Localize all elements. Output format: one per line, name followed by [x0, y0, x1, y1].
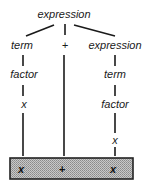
left-term-node: term [11, 39, 33, 51]
right-factor-node: factor [101, 98, 130, 110]
token-plus: + [59, 163, 66, 175]
token-x-2: x [109, 163, 117, 175]
parse-tree-diagram: expression term + expression factor x te… [0, 0, 153, 193]
edge-root-term [26, 25, 54, 36]
right-expression-node: expression [88, 39, 141, 51]
right-x-node: x [111, 134, 118, 146]
right-term-node: term [104, 68, 126, 80]
edge-root-expression [74, 25, 115, 36]
plus-node: + [62, 39, 69, 51]
left-x-node: x [20, 98, 27, 110]
root-node-expression: expression [37, 8, 90, 20]
left-factor-node: factor [10, 68, 39, 80]
token-x-1: x [17, 163, 25, 175]
